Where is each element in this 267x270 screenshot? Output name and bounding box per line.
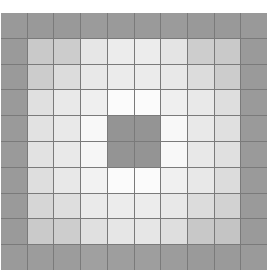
- heatmap-cell: [81, 142, 107, 167]
- heatmap-cell: [161, 245, 187, 270]
- heatmap-cell: [28, 168, 54, 193]
- heatmap-cell: [188, 13, 214, 38]
- heatmap-cell: [188, 116, 214, 141]
- heatmap-cell: [28, 116, 54, 141]
- heatmap-cell: [161, 13, 187, 38]
- heatmap-cell: [215, 65, 241, 90]
- heatmap-cell: [135, 142, 161, 167]
- heatmap-figure: [0, 0, 267, 270]
- heatmap-cell: [28, 219, 54, 244]
- heatmap-cell: [241, 245, 267, 270]
- heatmap-cell: [241, 39, 267, 64]
- heatmap-cell: [215, 194, 241, 219]
- heatmap-cell: [241, 90, 267, 115]
- heatmap-cell: [241, 65, 267, 90]
- heatmap-cell: [215, 90, 241, 115]
- heatmap-cell: [108, 39, 134, 64]
- heatmap-cell: [54, 65, 80, 90]
- heatmap-cell: [54, 245, 80, 270]
- heatmap-cell: [188, 245, 214, 270]
- heatmap-grid: [1, 13, 267, 270]
- heatmap-cell: [1, 65, 27, 90]
- heatmap-cell: [28, 142, 54, 167]
- heatmap-cell: [215, 245, 241, 270]
- heatmap-cell: [28, 39, 54, 64]
- heatmap-cell: [135, 39, 161, 64]
- heatmap-cell: [108, 245, 134, 270]
- heatmap-cell: [108, 90, 134, 115]
- heatmap-cell: [1, 116, 27, 141]
- heatmap-cell: [108, 194, 134, 219]
- heatmap-cell: [215, 13, 241, 38]
- heatmap-cell: [81, 168, 107, 193]
- heatmap-cell: [135, 245, 161, 270]
- heatmap-cell: [161, 116, 187, 141]
- heatmap-cell: [161, 39, 187, 64]
- heatmap-cell: [54, 219, 80, 244]
- heatmap-cell: [161, 90, 187, 115]
- heatmap-cell: [28, 13, 54, 38]
- heatmap-cell: [215, 142, 241, 167]
- heatmap-cell: [1, 245, 27, 270]
- heatmap-cell: [1, 219, 27, 244]
- heatmap-cell: [54, 142, 80, 167]
- heatmap-cell: [241, 168, 267, 193]
- heatmap-cell: [161, 65, 187, 90]
- heatmap-cell: [188, 168, 214, 193]
- heatmap-cell: [108, 168, 134, 193]
- heatmap-cell: [108, 13, 134, 38]
- heatmap-cell: [215, 116, 241, 141]
- heatmap-cell: [1, 39, 27, 64]
- heatmap-cell: [28, 90, 54, 115]
- heatmap-cell: [215, 219, 241, 244]
- heatmap-cell: [188, 90, 214, 115]
- heatmap-cell: [54, 116, 80, 141]
- heatmap-cell: [54, 39, 80, 64]
- heatmap-cell: [81, 116, 107, 141]
- heatmap-cell: [1, 168, 27, 193]
- heatmap-cell: [241, 194, 267, 219]
- heatmap-cell: [81, 219, 107, 244]
- heatmap-cell: [1, 13, 27, 38]
- heatmap-cell: [161, 142, 187, 167]
- heatmap-cell: [215, 168, 241, 193]
- heatmap-cell: [108, 116, 134, 141]
- heatmap-cell: [135, 168, 161, 193]
- heatmap-cell: [135, 116, 161, 141]
- heatmap-cell: [81, 194, 107, 219]
- heatmap-cell: [81, 39, 107, 64]
- heatmap-cell: [161, 219, 187, 244]
- heatmap-cell: [135, 219, 161, 244]
- heatmap-cell: [54, 13, 80, 38]
- heatmap-cell: [188, 39, 214, 64]
- heatmap-cell: [1, 90, 27, 115]
- heatmap-plot-area: [1, 13, 267, 270]
- heatmap-cell: [135, 90, 161, 115]
- heatmap-cell: [161, 168, 187, 193]
- heatmap-cell: [81, 90, 107, 115]
- heatmap-cell: [215, 39, 241, 64]
- heatmap-cell: [28, 245, 54, 270]
- heatmap-cell: [54, 168, 80, 193]
- heatmap-cell: [108, 219, 134, 244]
- heatmap-cell: [81, 13, 107, 38]
- heatmap-cell: [81, 65, 107, 90]
- heatmap-cell: [28, 65, 54, 90]
- heatmap-cell: [241, 219, 267, 244]
- heatmap-cell: [135, 194, 161, 219]
- heatmap-cell: [188, 65, 214, 90]
- heatmap-cell: [241, 13, 267, 38]
- heatmap-cell: [135, 65, 161, 90]
- heatmap-cell: [1, 142, 27, 167]
- heatmap-cell: [188, 194, 214, 219]
- heatmap-cell: [241, 116, 267, 141]
- heatmap-cell: [161, 194, 187, 219]
- figure-top-margin: [0, 0, 267, 13]
- heatmap-cell: [188, 142, 214, 167]
- heatmap-cell: [54, 90, 80, 115]
- heatmap-cell: [241, 142, 267, 167]
- heatmap-cell: [135, 13, 161, 38]
- heatmap-cell: [188, 219, 214, 244]
- heatmap-cell: [81, 245, 107, 270]
- heatmap-cell: [54, 194, 80, 219]
